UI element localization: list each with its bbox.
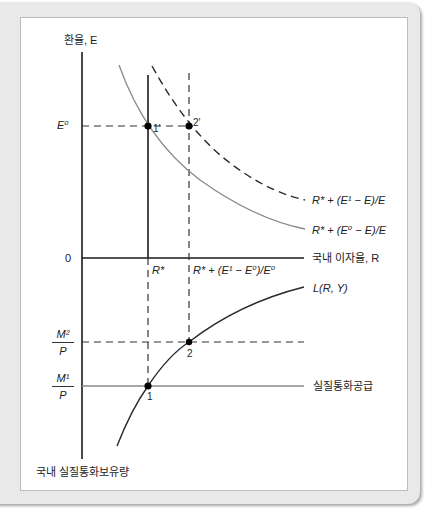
- interest-rate-axis-label: 국내 이자율, R: [312, 253, 379, 264]
- money-demand-curve: [117, 287, 304, 446]
- m1-denominator: P: [52, 387, 74, 401]
- m2-over-p-label: M² P: [52, 329, 74, 357]
- m2-denominator: P: [52, 343, 74, 357]
- solid-curve-label: R* + (E⁰ − E)/E: [312, 225, 386, 236]
- expected-return-curve-e0: [119, 65, 305, 229]
- expected-return-curve-e1: [152, 66, 305, 200]
- money-demand-label: L(R, Y): [313, 283, 348, 294]
- point-2-prime: [185, 122, 192, 129]
- r-new-label: R* + (E¹ − E⁰)/E⁰: [193, 265, 275, 276]
- e0-label: E⁰: [57, 120, 69, 131]
- r-star-label: R*: [152, 265, 164, 276]
- dashed-curve-label: R* + (E¹ − E)/E: [312, 195, 385, 206]
- m2-numerator: M²: [52, 329, 74, 343]
- money-supply-label: 실질통화공급: [313, 381, 373, 392]
- origin-label: 0: [65, 253, 71, 264]
- point-1: [144, 382, 151, 389]
- m1-over-p-label: M¹ P: [52, 373, 74, 401]
- point-2: [186, 339, 192, 345]
- point-2-prime-label: 2′: [193, 118, 200, 128]
- point-1-prime-label: 1′: [153, 124, 160, 134]
- exchange-rate-axis-label: 환율, E: [64, 35, 97, 46]
- point-1-label: 1: [147, 392, 153, 402]
- point-1-prime: [144, 122, 151, 129]
- real-money-holdings-axis-label: 국내 실질통화보유량: [36, 467, 129, 478]
- point-2-label: 2: [187, 349, 193, 359]
- m1-numerator: M¹: [52, 373, 74, 387]
